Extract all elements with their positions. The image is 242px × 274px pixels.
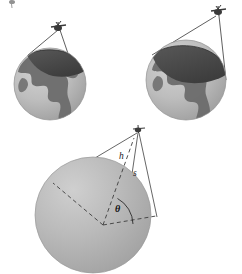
label-earth-central-angle-theta: θ xyxy=(115,203,121,214)
satellite-icon xyxy=(211,5,226,16)
satellite-icon xyxy=(51,21,66,31)
panel-high-altitude-coverage xyxy=(146,5,227,125)
label-altitude-h: h xyxy=(119,151,124,161)
satellite-coverage-figure: h s θ xyxy=(0,0,242,274)
label-slant-range-s: s xyxy=(133,168,137,178)
panel-low-altitude-coverage xyxy=(14,21,86,123)
satellite-icon-partial xyxy=(9,0,15,8)
satellite-antenna-mast xyxy=(138,125,139,133)
satellite-icon xyxy=(133,125,145,133)
satellite-body xyxy=(9,0,15,4)
figure-canvas: h s θ xyxy=(0,0,242,274)
panel-coverage-geometry: h s θ xyxy=(35,125,157,273)
